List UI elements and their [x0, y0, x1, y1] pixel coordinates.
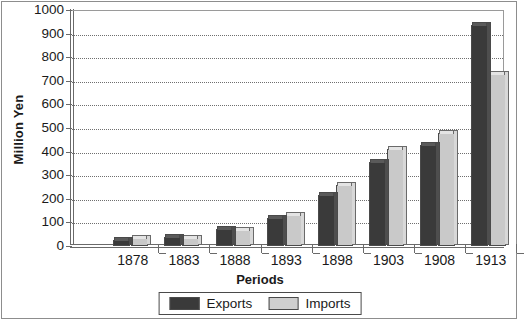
bar-top-face [370, 159, 385, 163]
x-separator-1903 [414, 244, 415, 253]
bar-side-face [129, 237, 133, 245]
bar-side-face [487, 22, 491, 245]
legend-swatch-imports [268, 297, 298, 310]
bar-group-1913 [471, 10, 506, 246]
x-axis-title: Periods [0, 272, 520, 287]
bar-top-face [337, 182, 352, 186]
bar-top-face [319, 192, 334, 196]
bar-top-face [132, 235, 147, 239]
bar-top-face [421, 142, 436, 146]
bar-top-face [388, 146, 403, 150]
y-tick-label-700: 700 [8, 74, 64, 88]
bar-imports-1888 [234, 230, 251, 246]
bar-side-face [334, 192, 338, 245]
bar-exports-1888 [216, 229, 233, 246]
bar-top-face [472, 22, 487, 26]
y-tick-mark-300 [66, 175, 72, 176]
y-tick-mark-200 [66, 199, 72, 200]
x-tick-label-1913: 1913 [461, 252, 521, 268]
bar-top-face [235, 227, 250, 231]
plot-area [72, 10, 504, 246]
y-tick-mark-900 [66, 34, 72, 35]
bar-top-face [439, 130, 454, 134]
bar-side-face [283, 215, 287, 245]
bar-imports-1883 [182, 238, 199, 246]
bar-exports-1883 [164, 237, 181, 246]
x-separator-1888 [261, 244, 262, 253]
y-tick-label-100: 100 [8, 215, 64, 229]
bar-exports-1898 [318, 195, 335, 246]
bar-group-1888 [216, 10, 251, 246]
legend-item-imports: Imports [268, 296, 350, 311]
y-tick-label-800: 800 [8, 50, 64, 64]
bar-exports-1903 [369, 162, 386, 246]
bar-side-face [147, 235, 151, 245]
bar-group-1878 [113, 10, 148, 246]
x-separator-1878 [158, 244, 159, 253]
bar-imports-1908 [438, 133, 455, 246]
x-separator-1898 [363, 244, 364, 253]
bar-side-face [180, 234, 184, 245]
y-tick-label-400: 400 [8, 145, 64, 159]
y-tick-mark-0 [66, 246, 72, 247]
y-tick-label-500: 500 [8, 121, 64, 135]
bar-group-1908 [420, 10, 455, 246]
y-tick-mark-1000 [66, 10, 72, 11]
y-tick-label-1000: 1000 [8, 3, 64, 17]
bar-top-face [490, 71, 505, 75]
bar-top-face [217, 226, 232, 230]
bar-imports-1913 [489, 74, 506, 246]
legend-item-exports: Exports [170, 296, 253, 311]
bar-group-1898 [318, 10, 353, 246]
bar-side-face [454, 130, 458, 245]
bar-side-face [403, 146, 407, 245]
y-tick-mark-100 [66, 222, 72, 223]
y-tick-mark-700 [66, 81, 72, 82]
bar-side-face [505, 71, 509, 245]
bar-side-face [250, 227, 254, 245]
y-tick-mark-500 [66, 128, 72, 129]
bar-imports-1903 [387, 149, 404, 246]
bar-top-face [183, 235, 198, 239]
bar-group-1883 [164, 10, 199, 246]
bar-imports-1893 [285, 215, 302, 246]
bar-side-face [301, 212, 305, 245]
y-tick-label-300: 300 [8, 168, 64, 182]
y-tick-label-900: 900 [8, 27, 64, 41]
bar-top-face [114, 237, 129, 241]
legend-label-exports: Exports [207, 296, 253, 311]
legend-swatch-exports [170, 297, 200, 310]
y-tick-label-200: 200 [8, 192, 64, 206]
bar-imports-1878 [131, 238, 148, 246]
bar-group-1893 [267, 10, 302, 246]
y-tick-label-600: 600 [8, 97, 64, 111]
y-tick-label-0: 0 [8, 239, 64, 253]
bar-side-face [436, 142, 440, 245]
x-separator-1893 [312, 244, 313, 253]
y-tick-mark-800 [66, 57, 72, 58]
bar-side-face [198, 235, 202, 245]
bar-group-1903 [369, 10, 404, 246]
bar-side-face [385, 159, 389, 245]
bar-exports-1878 [113, 240, 130, 246]
bar-side-face [232, 226, 236, 245]
x-separator-1913 [516, 244, 517, 253]
x-separator-1908 [465, 244, 466, 253]
bar-top-face [268, 215, 283, 219]
legend-label-imports: Imports [305, 296, 350, 311]
bar-exports-1893 [267, 218, 284, 246]
x-separator-1883 [209, 244, 210, 253]
bar-imports-1898 [336, 185, 353, 246]
bar-side-face [352, 182, 356, 245]
bar-top-face [165, 234, 180, 238]
bar-exports-1913 [471, 25, 488, 246]
bar-exports-1908 [420, 145, 437, 246]
chart-legend: ExportsImports [159, 292, 362, 315]
y-tick-mark-400 [66, 152, 72, 153]
bar-top-face [286, 212, 301, 216]
y-tick-mark-600 [66, 104, 72, 105]
